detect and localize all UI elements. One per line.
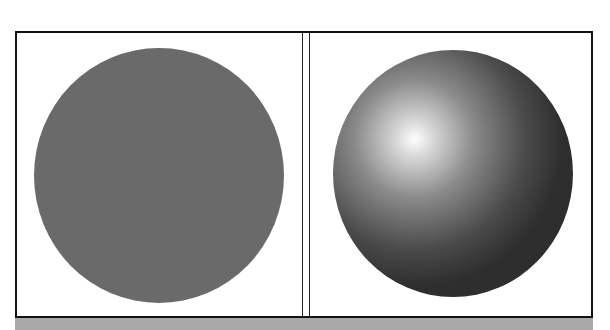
panel-divider-left <box>302 33 303 316</box>
flat-shaded-circle <box>34 48 284 303</box>
smooth-shaded-sphere <box>333 50 573 297</box>
bottom-shadow-band <box>15 318 593 330</box>
